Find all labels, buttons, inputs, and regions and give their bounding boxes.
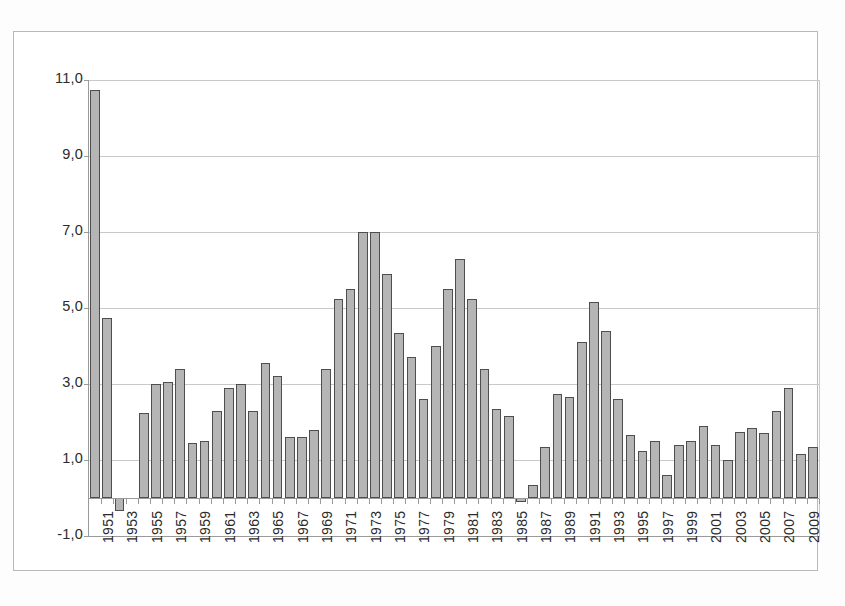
x-tick-label: 1953 — [124, 511, 140, 543]
bar — [443, 289, 453, 498]
x-tick-mark — [393, 499, 394, 504]
x-tick-mark — [308, 499, 309, 504]
bar — [589, 302, 599, 498]
bar — [553, 394, 563, 499]
x-tick-mark — [685, 499, 686, 504]
bar — [735, 432, 745, 499]
x-tick-label: 1959 — [197, 511, 213, 543]
x-tick-mark — [150, 499, 151, 504]
x-tick-label: 1997 — [660, 511, 676, 543]
chart-page: 11,09,07,05,03,01,0-1,0 1951195319551957… — [0, 0, 845, 606]
y-tick-mark — [84, 536, 89, 537]
x-tick-mark — [551, 499, 552, 504]
bar — [504, 416, 514, 498]
bar — [540, 447, 550, 498]
x-tick-mark — [320, 499, 321, 504]
x-tick-mark — [576, 499, 577, 504]
x-tick-mark — [199, 499, 200, 504]
x-tick-label: 1977 — [416, 511, 432, 543]
x-tick-label: 1989 — [562, 511, 578, 543]
x-tick-label: 1991 — [587, 511, 603, 543]
bar — [188, 443, 198, 498]
x-tick-label: 1979 — [441, 511, 457, 543]
bar — [650, 441, 660, 498]
bar — [358, 232, 368, 498]
bar — [309, 430, 319, 498]
x-tick-label: 1987 — [538, 511, 554, 543]
x-tick-label: 1985 — [514, 511, 530, 543]
bar — [102, 318, 112, 499]
x-tick-mark — [661, 499, 662, 504]
y-tick-label: -1,0 — [57, 526, 83, 542]
x-tick-mark — [235, 499, 236, 504]
x-tick-mark — [381, 499, 382, 504]
bar — [273, 376, 283, 498]
x-tick-mark — [186, 499, 187, 504]
y-tick-label: 3,0 — [62, 374, 83, 390]
bar — [480, 369, 490, 498]
bar — [784, 388, 794, 498]
x-tick-label: 1995 — [635, 511, 651, 543]
x-tick-mark — [734, 499, 735, 504]
x-tick-mark — [746, 499, 747, 504]
x-tick-mark — [272, 499, 273, 504]
bar — [674, 445, 684, 498]
bar — [382, 274, 392, 498]
x-tick-mark — [624, 499, 625, 504]
bar — [467, 299, 477, 499]
bar — [638, 451, 648, 499]
bar — [723, 460, 733, 498]
y-tick-label: 1,0 — [62, 450, 83, 466]
bar — [419, 399, 429, 498]
x-tick-mark — [697, 499, 698, 504]
bar — [565, 397, 575, 498]
x-tick-label: 1961 — [222, 511, 238, 543]
bar — [261, 363, 271, 498]
bar — [90, 90, 100, 499]
x-tick-label: 2005 — [757, 511, 773, 543]
x-tick-mark — [770, 499, 771, 504]
x-tick-label: 1957 — [173, 511, 189, 543]
x-tick-mark — [126, 499, 127, 504]
x-tick-mark — [296, 499, 297, 504]
bar — [626, 435, 636, 498]
x-tick-mark — [405, 499, 406, 504]
x-tick-label: 1965 — [270, 511, 286, 543]
x-tick-mark — [138, 499, 139, 504]
bar — [528, 485, 538, 498]
bar — [772, 411, 782, 498]
x-tick-mark — [807, 499, 808, 504]
x-tick-mark — [758, 499, 759, 504]
x-tick-mark — [722, 499, 723, 504]
x-tick-mark — [454, 499, 455, 504]
bar — [455, 259, 465, 498]
x-tick-label: 1993 — [611, 511, 627, 543]
y-tick-label: 5,0 — [62, 298, 83, 314]
bar — [175, 369, 185, 498]
bar — [601, 331, 611, 498]
bar — [151, 384, 161, 498]
bar — [662, 475, 672, 498]
x-tick-mark — [710, 499, 711, 504]
x-tick-mark — [466, 499, 467, 504]
bar — [711, 445, 721, 498]
x-tick-mark — [649, 499, 650, 504]
x-tick-mark — [600, 499, 601, 504]
bar — [285, 437, 295, 498]
bar — [224, 388, 234, 498]
bar — [808, 447, 818, 498]
x-tick-label: 1983 — [489, 511, 505, 543]
x-tick-mark — [430, 499, 431, 504]
x-tick-mark — [819, 499, 820, 504]
x-tick-mark — [539, 499, 540, 504]
y-tick-label: 7,0 — [62, 222, 83, 238]
x-tick-mark — [247, 499, 248, 504]
x-tick-mark — [174, 499, 175, 504]
x-tick-label: 1981 — [465, 511, 481, 543]
bar — [394, 333, 404, 498]
x-tick-label: 1999 — [684, 511, 700, 543]
x-tick-mark — [491, 499, 492, 504]
x-tick-mark — [673, 499, 674, 504]
x-tick-mark — [612, 499, 613, 504]
bar — [613, 399, 623, 498]
